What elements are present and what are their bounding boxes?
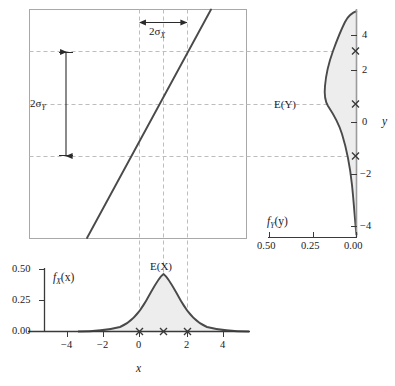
- fx-fill: [91, 274, 236, 331]
- fx-xtick-neg4: −4: [61, 340, 72, 351]
- figure-root: 2σX 2σY E(Y) fY(y) 0.50 0.25 0.00 4 2 0 …: [0, 0, 395, 386]
- expected-x-label: E(X): [150, 261, 172, 272]
- fx-ytick-050: 0.50: [12, 264, 30, 275]
- sigma-y-label: 2σY: [30, 98, 46, 112]
- transformation-panel-frame: [30, 10, 247, 239]
- y-axis-name: y: [382, 116, 387, 128]
- fy-axis-label: fY(y): [267, 216, 288, 230]
- fx-xtick-2: 2: [184, 340, 189, 351]
- sigma-x-label: 2σX: [149, 26, 165, 40]
- fy-tick-000: 0.00: [344, 241, 362, 252]
- fx-axis-label: fX(x): [53, 272, 74, 286]
- fx-xtick-neg2: −2: [97, 340, 108, 351]
- x-axis-name: x: [136, 363, 141, 375]
- fy-tick-050: 0.50: [257, 241, 275, 252]
- fy-ytick-neg4: −4: [360, 221, 371, 232]
- fx-ytick-000: 0.00: [12, 326, 30, 337]
- fy-tick-025: 0.25: [301, 241, 319, 252]
- fx-xtick-0: 0: [136, 340, 141, 351]
- fy-ytick-0: 0: [362, 117, 367, 128]
- fx-xtick-4: 4: [220, 340, 225, 351]
- figure-canvas: [0, 0, 395, 386]
- fy-panel: [268, 9, 359, 238]
- expected-y-label: E(Y): [274, 99, 296, 110]
- fy-ytick-2: 2: [362, 65, 367, 76]
- fy-ytick-4: 4: [362, 30, 367, 41]
- fx-ytick-025: 0.25: [12, 295, 30, 306]
- fy-ytick-neg2: −2: [360, 169, 371, 180]
